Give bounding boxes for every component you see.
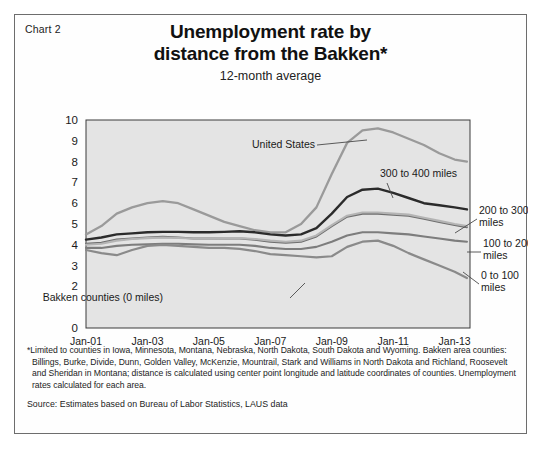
x-tick-Jan-01: Jan-01	[70, 335, 102, 345]
footnote-limited-counties: *Limited to counties in Iowa, Minnesota,…	[27, 345, 519, 391]
chart-panel: Chart 2 Unemployment rate by distance fr…	[14, 14, 527, 434]
y-tick-10: 10	[65, 114, 78, 126]
annotation-miles: miles	[481, 281, 506, 293]
x-tick-Jan-09: Jan-09	[316, 335, 348, 345]
annotation-100-to-200: 100 to 200	[483, 237, 528, 249]
annotation-miles: miles	[479, 216, 504, 228]
x-axis-tick-labels: Jan-01Jan-03Jan-05Jan-07Jan-09Jan-11Jan-…	[70, 335, 471, 345]
x-tick-Jan-05: Jan-05	[193, 335, 225, 345]
footnotes-block: *Limited to counties in Iowa, Minnesota,…	[27, 345, 519, 410]
annotation-miles: miles	[483, 249, 508, 261]
x-tick-Jan-03: Jan-03	[131, 335, 163, 345]
annotation-bakken-counties-0-miles: Bakken counties (0 miles)	[43, 291, 163, 303]
annotation-300-to-400-miles: 300 to 400 miles	[380, 167, 457, 179]
y-tick-4: 4	[72, 239, 79, 251]
y-tick-3: 3	[72, 260, 78, 272]
y-tick-9: 9	[72, 135, 78, 147]
x-tick-Jan-07: Jan-07	[254, 335, 286, 345]
y-tick-0: 0	[72, 322, 78, 334]
annotation-united-states: United States	[252, 138, 315, 150]
y-tick-8: 8	[72, 156, 78, 168]
y-tick-6: 6	[72, 197, 78, 209]
y-tick-7: 7	[72, 176, 78, 188]
x-tick-Jan-11: Jan-11	[378, 335, 409, 345]
line-chart-svg: 02345678910 Jan-01Jan-03Jan-05Jan-07Jan-…	[15, 15, 528, 345]
annotation-200-to-300: 200 to 300	[479, 204, 528, 216]
x-tick-Jan-13: Jan-13	[439, 335, 471, 345]
y-tick-5: 5	[72, 218, 78, 230]
annotation-0-to-100: 0 to 100	[481, 269, 519, 281]
source-line: Source: Estimates based on Bureau of Lab…	[27, 398, 519, 410]
